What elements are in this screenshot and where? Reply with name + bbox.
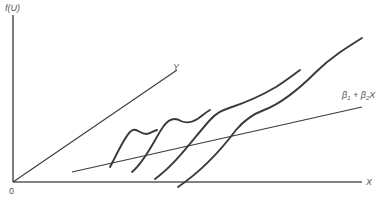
distribution-curve-3: [155, 70, 300, 179]
y-line-label: Y: [173, 62, 180, 72]
y-axis-label: f(U): [5, 3, 20, 13]
y-line: [13, 70, 177, 182]
regression-diagram: f(U) X 0 Y β1 + β2X: [0, 0, 389, 198]
regression-label: β1 + β2X: [341, 90, 376, 101]
origin-label: 0: [9, 186, 14, 196]
x-axis-label: X: [365, 177, 373, 187]
distribution-curve-2: [132, 110, 210, 172]
regression-line: [72, 107, 362, 172]
